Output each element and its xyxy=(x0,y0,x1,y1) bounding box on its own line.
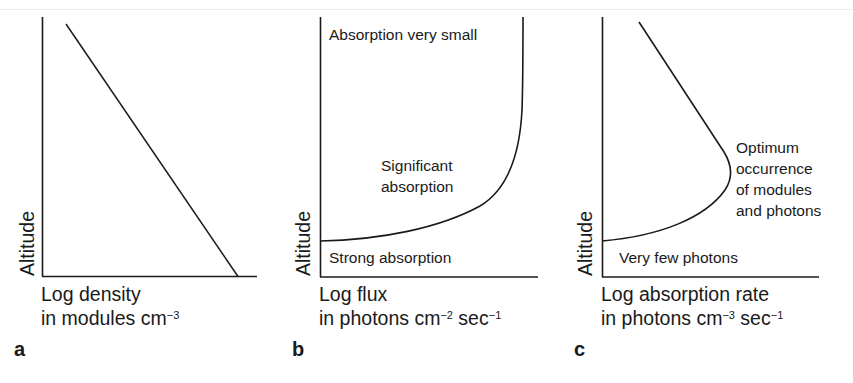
panel-c-x-unit: in photons cm xyxy=(601,307,722,329)
panel-c-x-unit-sec: sec xyxy=(735,307,771,329)
panel-b-x-exponent-1: −2 xyxy=(440,309,453,321)
panel-b-flux-curve xyxy=(320,17,523,241)
panel-b-x-axis-label-line2: in photons cm−2 sec−1 xyxy=(319,307,501,330)
panel-a-x-axis-label-line1: Log density xyxy=(41,283,141,306)
panel-c-x-axis-label-line2: in photons cm−3 sec−1 xyxy=(601,307,783,330)
panel-b-letter: b xyxy=(292,338,304,360)
panel-b-x-unit-sec: sec xyxy=(453,307,489,329)
panel-b-annotation-middle-line1: Significant xyxy=(381,157,453,175)
panel-c-x-exponent-2: −1 xyxy=(771,309,784,321)
panel-a-letter: a xyxy=(14,338,25,360)
panel-c-y-axis-label: Altitude xyxy=(574,211,596,276)
panel-c-annotation-right-line2: occurrence xyxy=(736,160,813,178)
panel-c-annotation-right-line4: and photons xyxy=(736,202,821,220)
panel-c-absorption-rate-curve xyxy=(602,22,731,241)
panel-b-annotation-top: Absorption very small xyxy=(329,26,477,44)
panel-c-letter: c xyxy=(574,338,585,360)
panel-b-x-exponent-2: −1 xyxy=(489,309,502,321)
panel-a-x-axis-label-line2: in modules cm−3 xyxy=(41,307,179,330)
panel-b-annotation-bottom: Strong absorption xyxy=(329,249,451,267)
panel-c-annotation-bottom: Very few photons xyxy=(619,249,738,267)
panel-b-y-axis-label: Altitude xyxy=(292,211,314,276)
panel-b-plot xyxy=(320,17,538,277)
panel-b-x-axis-label-line1: Log flux xyxy=(319,283,387,306)
panel-b-annotation-middle-line2: absorption xyxy=(381,178,453,196)
panel-a-x-exponent: −3 xyxy=(167,309,180,321)
panel-a-density-line xyxy=(66,24,238,277)
panel-c-x-axis-label-line1: Log absorption rate xyxy=(601,283,769,306)
panel-c-annotation-right-line3: of modules xyxy=(736,181,812,199)
panel-c-x-exponent-1: −3 xyxy=(722,309,735,321)
panel-a-plot xyxy=(42,17,257,277)
panel-a-x-unit: in modules cm xyxy=(41,307,167,329)
panel-a-y-axis-label: Altitude xyxy=(16,211,38,276)
panel-c-annotation-right-line1: Optimum xyxy=(736,139,799,157)
panel-b-x-unit: in photons cm xyxy=(319,307,440,329)
